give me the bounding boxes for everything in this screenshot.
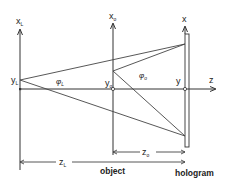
- hologram-origin-marker: [183, 87, 186, 90]
- object-axis-label: xo: [109, 11, 117, 22]
- reference-beam: [20, 44, 185, 136]
- object-distance-dimension: zo: [113, 146, 185, 158]
- reference-axis: xL: [16, 16, 24, 170]
- reference-axis-label: xL: [16, 16, 24, 27]
- hologram-axis-label: x: [182, 14, 187, 24]
- optical-axis: z: [19, 75, 216, 92]
- hologram: x: [182, 14, 189, 147]
- object-caption: object: [100, 166, 125, 176]
- hologram-caption: hologram: [175, 168, 214, 178]
- reference-origin-marker: [19, 88, 21, 90]
- reference-source-label: yL: [11, 75, 19, 86]
- object-point-label: yo: [105, 78, 113, 89]
- optical-axis-label: z: [209, 75, 214, 85]
- holography-diagram: xL xo x z yL yo y φL φo: [0, 0, 229, 184]
- reference-angle-label: φL: [56, 77, 64, 87]
- hologram-origin-label: y: [176, 76, 181, 86]
- object-angle-label: φo: [139, 71, 147, 81]
